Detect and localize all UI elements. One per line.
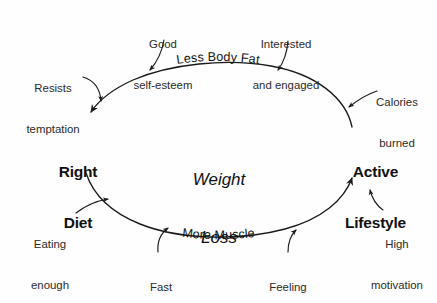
annotation-resists-temptation: Resists temptation bbox=[9, 55, 97, 165]
annotation-fast-metabolism: Fast metabolism bbox=[113, 254, 209, 303]
annotation-interested-and-engaged-line2: and engaged bbox=[234, 79, 338, 93]
annotation-calories-burned-line2: burned bbox=[356, 137, 437, 151]
annotation-good-self-esteem-line1: Good bbox=[117, 38, 209, 52]
annotation-good-self-esteem: Good self-esteem bbox=[117, 11, 209, 121]
annotation-calories-burned: Calories burned bbox=[356, 69, 437, 179]
weight-loss-cycle-diagram: Less Body Fat More Muscle bbox=[0, 0, 437, 303]
annotation-good-self-esteem-line2: self-esteem bbox=[117, 79, 209, 93]
annotation-feeling-energetic: Feeling energetic bbox=[243, 254, 333, 303]
annotation-interested-and-engaged-line1: Interested bbox=[234, 38, 338, 52]
annotation-high-motivation: High motivation bbox=[357, 211, 437, 303]
annotation-high-motivation-line2: motivation bbox=[357, 279, 437, 293]
annotation-resists-temptation-line1: Resists bbox=[9, 82, 97, 96]
center-title-line2: Loss bbox=[159, 228, 279, 247]
center-title-line1: Weight bbox=[159, 170, 279, 189]
annotation-eating-enough-line1: Eating bbox=[9, 238, 91, 252]
annotation-eating-enough-line2: enough bbox=[9, 279, 91, 293]
annotation-interested-and-engaged: Interested and engaged bbox=[234, 11, 338, 121]
annotation-calories-burned-line1: Calories bbox=[356, 96, 437, 110]
arrow-feeling-energetic bbox=[288, 230, 296, 252]
annotation-high-motivation-line1: High bbox=[357, 238, 437, 252]
annotation-eating-enough: Eating enough bbox=[9, 211, 91, 303]
annotation-fast-metabolism-line1: Fast bbox=[113, 281, 209, 295]
annotation-resists-temptation-line2: temptation bbox=[9, 123, 97, 137]
node-right-diet-line1: Right bbox=[28, 164, 128, 181]
annotation-feeling-energetic-line1: Feeling bbox=[243, 281, 333, 295]
